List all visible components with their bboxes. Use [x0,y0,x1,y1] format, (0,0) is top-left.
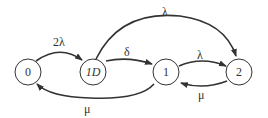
edge-label-1-2: λ [197,48,203,62]
svg-text:1: 1 [163,65,169,79]
edge-label-1D-1: δ [124,45,130,59]
edge-label-1-0: μ [84,102,90,116]
svg-text:1D: 1D [86,65,101,79]
edge-label-1D-2: λ [162,5,168,19]
edge-0-to-1D [36,52,82,61]
state-node-2: 2 [226,59,252,85]
svg-text:2: 2 [236,65,242,79]
svg-text:0: 0 [25,65,31,79]
state-node-1: 1 [153,59,179,85]
state-diagram: 2λ δ λ λ μ μ 0 1D 1 2 [0,0,268,118]
edge-2-to-1 [181,81,227,86]
state-node-0: 0 [15,59,41,85]
edge-label-2-1: μ [198,88,204,102]
edge-1D-to-2 [96,15,236,59]
edge-1-to-0 [37,84,154,98]
state-node-1D: 1D [80,59,106,85]
edge-1D-to-1 [106,59,152,64]
edge-label-0-1D: 2λ [53,35,65,49]
